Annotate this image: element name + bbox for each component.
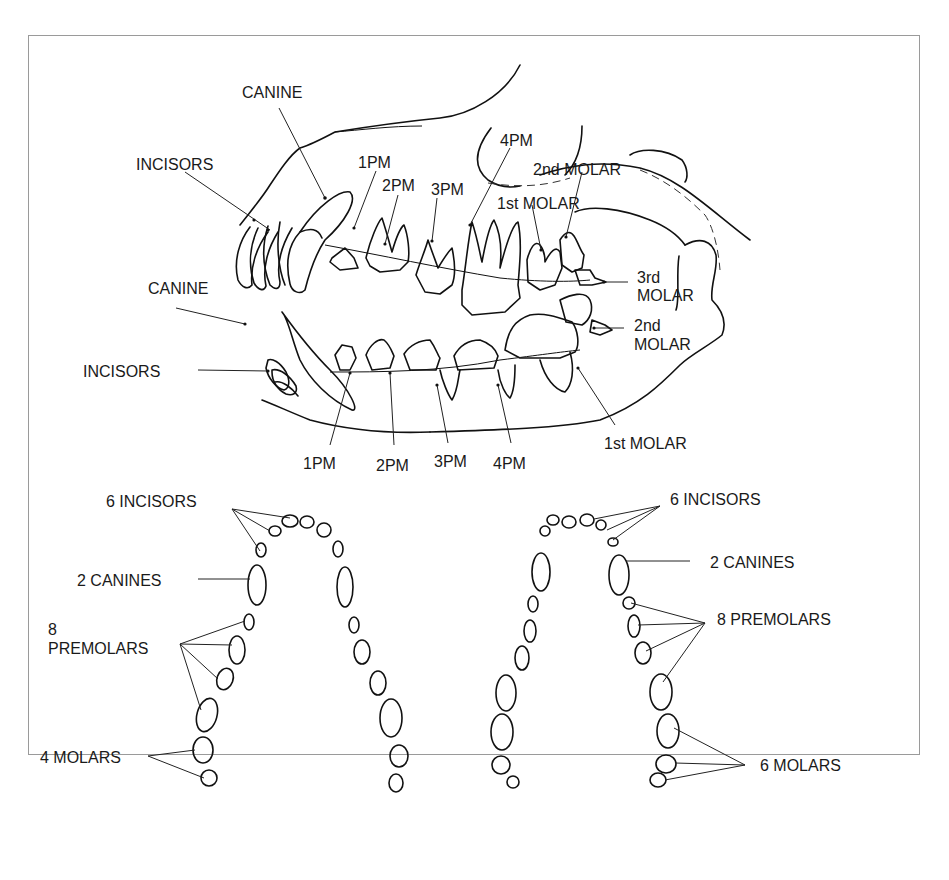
upper-dental-arch: 6 INCISORS 2 CANINES 8 PREMOLARS 6 MOLAR…	[491, 491, 841, 788]
label-lower-8-premolars-line1: 8	[48, 621, 57, 638]
label-lower-1pm: 1PM	[303, 455, 336, 472]
dentition-diagram: CANINE INCISORS 1PM 2PM 3PM 4PM 2nd MOLA…	[0, 0, 949, 880]
label-lower-4pm: 4PM	[493, 455, 526, 472]
label-lower-6-incisors: 6 INCISORS	[106, 493, 197, 510]
label-upper-2-canines: 2 CANINES	[710, 554, 794, 571]
label-upper-1st-molar: 1st MOLAR	[497, 195, 580, 212]
label-upper-4pm: 4PM	[500, 132, 533, 149]
label-upper-incisors: INCISORS	[136, 156, 213, 173]
label-lower-1st-molar: 1st MOLAR	[604, 435, 687, 452]
label-lower-canine: CANINE	[148, 280, 208, 297]
labels-lateral: CANINE INCISORS 1PM 2PM 3PM 4PM 2nd MOLA…	[83, 84, 694, 474]
label-3rd-molar-line2: MOLAR	[637, 287, 694, 304]
label-upper-8-premolars: 8 PREMOLARS	[717, 611, 831, 628]
label-lower-2nd-molar-line2: MOLAR	[634, 336, 691, 353]
label-upper-1pm: 1PM	[358, 154, 391, 171]
label-upper-3pm: 3PM	[431, 181, 464, 198]
label-lower-2pm: 2PM	[376, 457, 409, 474]
lower-dental-arch: 6 INCISORS 2 CANINES 8 PREMOLARS 4 MOLAR…	[40, 493, 408, 792]
label-lower-3pm: 3PM	[434, 453, 467, 470]
label-upper-canine: CANINE	[242, 84, 302, 101]
label-3rd-molar-line1: 3rd	[637, 269, 660, 286]
label-upper-2nd-molar: 2nd MOLAR	[533, 161, 621, 178]
skull-lateral-view	[236, 65, 750, 432]
label-upper-6-incisors: 6 INCISORS	[670, 491, 761, 508]
label-lower-2-canines: 2 CANINES	[77, 572, 161, 589]
label-lower-8-premolars-line2: PREMOLARS	[48, 640, 148, 657]
label-upper-6-molars: 6 MOLARS	[760, 757, 841, 774]
leader-lines-lateral	[176, 108, 628, 445]
label-lower-4-molars: 4 MOLARS	[40, 749, 121, 766]
label-upper-2pm: 2PM	[382, 177, 415, 194]
label-lower-incisors: INCISORS	[83, 363, 160, 380]
label-lower-2nd-molar-line1: 2nd	[634, 317, 661, 334]
